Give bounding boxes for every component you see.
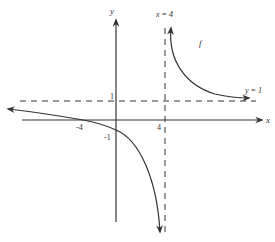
function-label: f [199,38,203,48]
tick-label-x-4: 4 [157,123,161,132]
tick-label-x-neg4: -4 [76,123,83,132]
tick-label-y-1: 1 [110,92,114,101]
y-axis-label: y [109,6,114,16]
right-branch-curve [171,28,249,98]
tick-label-y-neg1: -1 [104,133,111,142]
horizontal-asymptote-label: y = 1 [244,86,262,95]
rational-function-graph: y x x = 4 y = 1 f 1 -1 -4 4 [0,0,275,242]
vertical-asymptote-label: x = 4 [155,10,173,19]
left-branch-curve [8,109,160,232]
x-axis-label: x [265,115,270,125]
